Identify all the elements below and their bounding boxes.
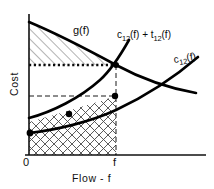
curve-label-c12-plus-t12: c12(f) + t12(f) [117,29,171,43]
curve-label-g: g(f) [73,24,90,36]
marker-curve-crossing [66,111,72,117]
marker-c12-at-f [112,93,118,99]
label-sum-mid: (f) + t [130,29,154,40]
cost-flow-figure: Cost Flow - f 0 f g(f) c12(f) + t12(f) c… [0,0,214,189]
marker-intersection-at-f [113,62,119,68]
plot-canvas [0,0,214,189]
x-tick-f: f [113,156,116,168]
marker-origin-c12 [27,130,34,137]
x-axis-label: Flow - f [72,172,111,184]
x-tick-origin: 0 [23,156,29,168]
label-c12-suffix: (f) [186,50,197,62]
label-sum-sub1: 12 [122,34,130,43]
y-axis-label: Cost [8,62,20,106]
label-sum-sub2: 12 [154,34,162,43]
label-sum-suffix: (f) [162,29,171,40]
